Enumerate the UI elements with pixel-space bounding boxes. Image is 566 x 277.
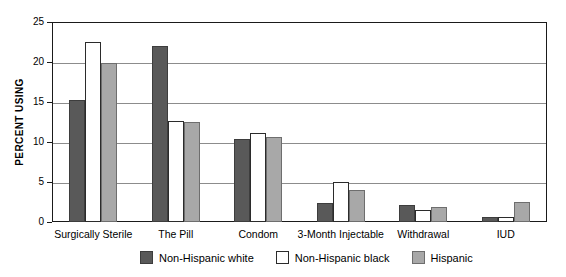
y-tick-label: 5 [4,177,44,187]
legend-swatch-icon [140,251,153,264]
bar [234,139,250,222]
legend-label: Non-Hispanic black [295,252,390,264]
y-tick-label: 0 [4,217,44,227]
y-axis-title: PERCENT USING [14,62,25,182]
bar [317,203,333,222]
x-category-label: IUD [436,228,566,240]
bar [349,190,365,222]
y-tick-label: 25 [4,17,44,27]
bar [333,182,349,222]
bar [168,121,184,222]
y-tick-label: 15 [4,97,44,107]
bar [152,46,168,222]
bar [85,42,101,222]
bar [184,122,200,222]
bar [482,217,498,222]
chart-legend: Non-Hispanic whiteNon-Hispanic blackHisp… [140,251,473,264]
legend-item: Non-Hispanic white [140,251,254,264]
bar [69,100,85,222]
bar [514,202,530,222]
y-tick-label: 20 [4,57,44,67]
legend-item: Hispanic [412,251,473,264]
legend-label: Non-Hispanic white [159,252,254,264]
y-tick-mark [47,222,52,223]
bar [266,137,282,222]
bars-layer [52,22,547,222]
legend-swatch-icon [412,251,425,264]
bar-chart: PERCENT USING 0510152025 Surgically Ster… [0,0,566,277]
bar [250,133,266,222]
bar [431,207,447,222]
bar [415,210,431,222]
legend-swatch-icon [276,251,289,264]
bar [399,205,415,222]
legend-label: Hispanic [431,252,473,264]
bar [498,217,514,222]
y-tick-label: 10 [4,137,44,147]
legend-item: Non-Hispanic black [276,251,390,264]
bar [101,63,117,222]
